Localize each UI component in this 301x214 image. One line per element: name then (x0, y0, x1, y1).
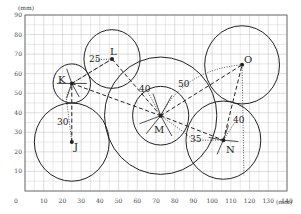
x-tick-label: 50 (115, 197, 123, 204)
point-L (110, 57, 114, 61)
label-J: J (73, 141, 78, 152)
label-N: N (226, 144, 235, 155)
x-tick-label: 40 (96, 197, 104, 204)
y-tick-label: 60 (14, 70, 22, 77)
dimension-25: 25 (89, 54, 101, 64)
y-tick-label: 90 (14, 11, 22, 18)
y-axis-unit: (mm) (18, 4, 34, 11)
x-tick-label: 70 (152, 197, 160, 204)
y-tick-label: 40 (14, 109, 22, 116)
x-tick-label: 60 (133, 197, 141, 204)
y-tick-label: 30 (14, 128, 22, 135)
x-tick-label: 100 (206, 197, 218, 204)
point-M (159, 114, 163, 118)
x-tick-label: 10 (40, 197, 48, 204)
point-N (221, 138, 225, 142)
dimension-40-top: 40 (139, 84, 151, 94)
x-tick-label: 120 (244, 197, 256, 204)
x-tick-label: 30 (77, 197, 85, 204)
x-tick-label: 80 (171, 197, 179, 204)
point-K (70, 81, 74, 85)
x-tick-label: 20 (59, 197, 67, 204)
dimension-35: 35 (190, 134, 202, 144)
label-L: L (110, 46, 117, 57)
dimension-50: 50 (178, 79, 190, 89)
circles (34, 26, 279, 181)
label-M: M (154, 124, 164, 135)
connector-lines (57, 59, 244, 175)
y-tick-label: 20 (14, 148, 22, 155)
dimension-40-right: 40 (233, 115, 245, 125)
y-tick-label: 80 (14, 31, 22, 38)
origin-label: 0 (14, 197, 18, 204)
dimension-30: 30 (57, 117, 69, 127)
y-tick-label: 70 (14, 50, 22, 57)
x-tick-label: 130 (263, 197, 275, 204)
y-tick-label: 50 (14, 89, 22, 96)
distance-diagram: (mm) (mm) 0 1020304050607080901001101201… (0, 0, 301, 214)
x-tick-labels: 102030405060708090100110120130140 (40, 197, 293, 204)
x-tick-label: 140 (281, 197, 293, 204)
label-K: K (58, 74, 66, 85)
label-O: O (244, 54, 252, 65)
x-tick-label: 90 (190, 197, 198, 204)
x-tick-label: 110 (225, 197, 237, 204)
y-tick-labels: 102030405060708090 (14, 11, 22, 174)
y-tick-label: 10 (14, 167, 22, 174)
